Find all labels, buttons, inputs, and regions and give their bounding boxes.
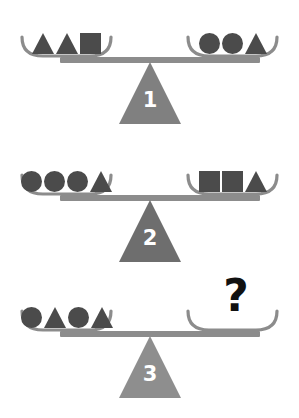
triangle-shape [56,33,78,54]
circle-shape [68,307,89,328]
shapes-left-1 [19,28,114,54]
question-mark: ? [208,274,264,318]
shapes-left-2 [19,166,114,192]
balance-puzzle: 1 2 [0,0,299,418]
triangle-shape [90,171,112,192]
balance-scale-1: 1 [0,8,299,134]
triangle-shape [91,307,113,328]
square-shape [222,171,243,192]
balance-scale-2: 2 [0,146,299,272]
triangle-shape [245,171,267,192]
balance-scale-3: ? 3 [0,282,299,408]
shapes-left-3 [19,302,114,328]
fulcrum-label-3: 3 [119,364,181,385]
circle-shape [44,171,65,192]
fulcrum-label-1: 1 [119,90,181,111]
square-shape [199,171,220,192]
circle-shape [21,171,42,192]
circle-shape [222,33,243,54]
fulcrum-3: 3 [119,336,181,398]
shapes-right-2 [185,166,280,192]
square-shape [80,33,101,54]
shapes-right-1 [185,28,280,54]
fulcrum-2: 2 [119,200,181,262]
triangle-shape [245,33,267,54]
circle-shape [199,33,220,54]
triangle-shape [32,33,54,54]
fulcrum-1: 1 [119,62,181,124]
triangle-shape [44,307,66,328]
circle-shape [67,171,88,192]
circle-shape [21,307,42,328]
fulcrum-label-2: 2 [119,228,181,249]
